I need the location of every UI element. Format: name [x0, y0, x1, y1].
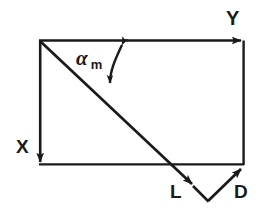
v-closing-segment	[193, 186, 209, 202]
y-axis-label: Y	[226, 8, 239, 28]
resultant-vector-line	[40, 41, 192, 184]
drag-vector-label: D	[234, 182, 248, 201]
angle-label: α m	[76, 48, 102, 69]
angle-subscript: m	[91, 58, 103, 71]
angle-arc	[110, 45, 122, 83]
lift-vector-label: L	[170, 182, 182, 201]
angle-symbol: α	[76, 48, 88, 69]
diagram-svg	[0, 0, 258, 210]
x-axis-label: X	[16, 137, 29, 156]
figure-canvas: Y X L D α m	[0, 0, 258, 210]
